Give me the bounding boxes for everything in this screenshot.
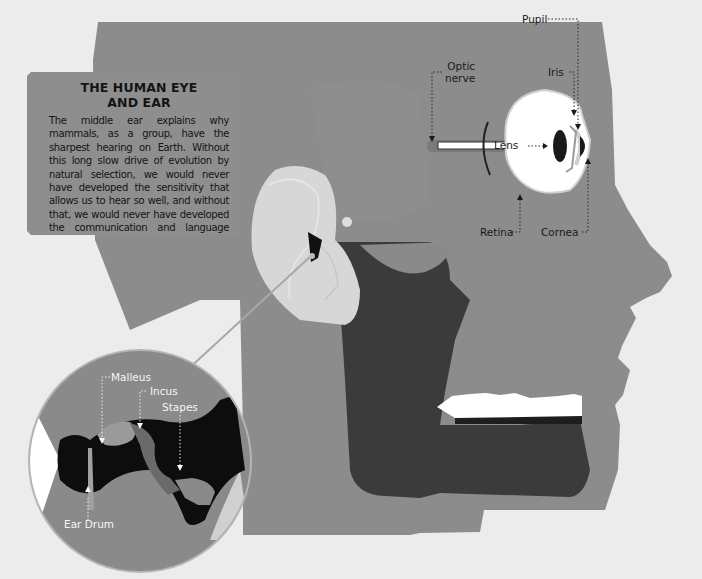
info-title: THE HUMAN EYE AND EAR [49, 80, 229, 110]
label-iris: Iris [548, 66, 564, 78]
label-pupil: Pupil [522, 13, 547, 25]
label-malleus: Malleus [111, 371, 151, 383]
info-title-line2: AND EAR [49, 95, 229, 110]
label-incus: Incus [150, 385, 178, 397]
label-lens: Lens [494, 139, 518, 151]
label-optic-nerve-line1: Optic [443, 60, 475, 72]
info-title-line1: THE HUMAN EYE [49, 80, 229, 95]
info-panel: THE HUMAN EYE AND EAR The middle ear exp… [27, 72, 239, 235]
label-ear-drum: Ear Drum [64, 518, 114, 530]
diagram-stage: THE HUMAN EYE AND EAR The middle ear exp… [0, 0, 702, 579]
label-cornea: Cornea [541, 226, 578, 238]
label-stapes: Stapes [162, 401, 198, 413]
label-optic-nerve: Optic nerve [443, 60, 475, 84]
label-optic-nerve-line2: nerve [445, 72, 475, 84]
label-retina: Retina [480, 226, 513, 238]
